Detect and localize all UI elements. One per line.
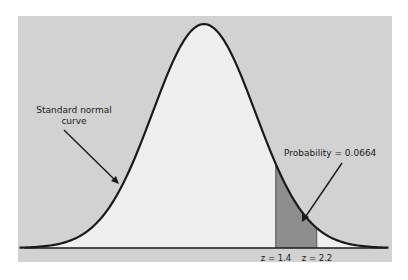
probability-label: Probability = 0.0664 xyxy=(284,148,377,158)
curve-label-line1: Standard normal xyxy=(36,105,111,115)
z-high-label: z = 2.2 xyxy=(302,253,333,263)
z-low-label: z = 1.4 xyxy=(261,253,292,263)
normal-curve-diagram: Standard normal curve Probability = 0.06… xyxy=(0,0,408,280)
curve-label-line2: curve xyxy=(61,116,87,126)
